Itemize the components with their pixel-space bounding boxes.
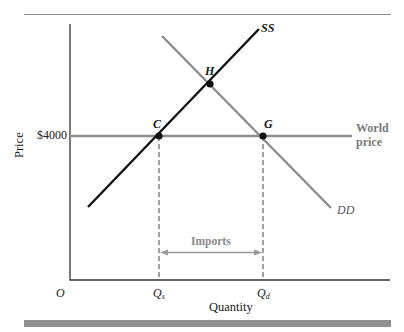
- world-price-label-line1: World: [356, 121, 389, 135]
- import-tariff-chart: SS DD H C G $4000 World price Imports O …: [0, 0, 404, 332]
- qd-subscript: d: [266, 292, 270, 301]
- point-h-label: H: [205, 64, 214, 79]
- point-c-label: C: [153, 117, 161, 132]
- supply-label: SS: [261, 21, 274, 36]
- x-axis-title: Quantity: [209, 300, 253, 315]
- imports-arrowhead-right-icon: [254, 250, 262, 256]
- world-price-label: World price: [356, 121, 389, 149]
- imports-arrowhead-left-icon: [160, 250, 168, 256]
- imports-label: Imports: [191, 235, 231, 247]
- qd-main: Q: [257, 286, 266, 300]
- world-price-label-line2: price: [356, 135, 389, 149]
- demand-label: DD: [337, 203, 354, 218]
- qs-main: Q: [153, 286, 162, 300]
- y-axis-title: Price: [12, 132, 27, 158]
- point-h-marker: [206, 80, 213, 87]
- demand-curve-dd: [162, 36, 331, 208]
- point-g-marker: [259, 132, 266, 139]
- bottom-bar: [24, 320, 391, 327]
- supply-curve-ss: [88, 29, 259, 207]
- point-g-label: G: [264, 117, 273, 132]
- origin-label: O: [56, 286, 65, 301]
- qs-subscript: s: [162, 292, 165, 301]
- price-tick-label: $4000: [37, 128, 67, 143]
- qd-tick-label: Qd: [257, 286, 270, 301]
- point-c-marker: [155, 132, 162, 139]
- qs-tick-label: Qs: [153, 286, 165, 301]
- chart-canvas: [0, 0, 404, 332]
